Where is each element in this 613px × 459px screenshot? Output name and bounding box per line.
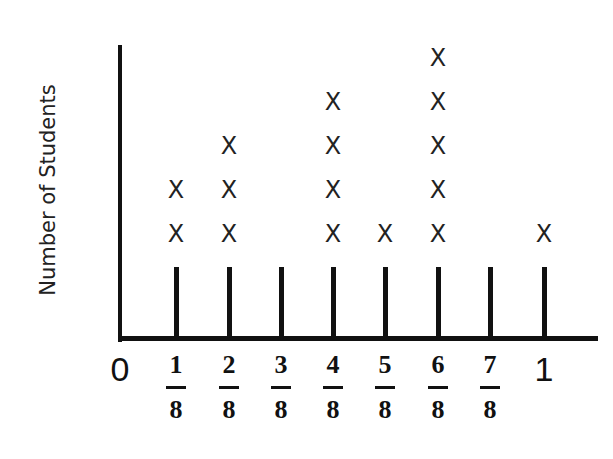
- x-axis-tick: [174, 267, 179, 338]
- x-tick-label-4-8: 48: [320, 352, 346, 423]
- x-tick-label-5-8: 58: [372, 352, 398, 423]
- y-axis-line: [118, 45, 122, 342]
- x-tick-label-6-8: 68: [425, 352, 451, 423]
- data-point-x-marker: X: [325, 178, 341, 202]
- data-point-x-marker: X: [536, 222, 552, 246]
- x-axis-line: [118, 336, 598, 341]
- x-tick-label-zero: 0: [111, 352, 130, 386]
- data-point-x-marker: X: [168, 222, 184, 246]
- x-axis-tick: [542, 267, 547, 338]
- x-tick-label-1-8: 18: [163, 352, 189, 423]
- x-axis-tick: [331, 267, 336, 338]
- data-point-x-marker: X: [168, 178, 184, 202]
- x-axis-tick: [279, 267, 284, 338]
- data-point-x-marker: X: [221, 222, 237, 246]
- x-axis-tick: [227, 267, 232, 338]
- data-point-x-marker: X: [430, 178, 446, 202]
- y-axis-label: Number of Students: [36, 84, 60, 296]
- data-point-x-marker: X: [430, 222, 446, 246]
- data-point-x-marker: X: [430, 134, 446, 158]
- data-point-x-marker: X: [221, 134, 237, 158]
- x-tick-label-7-8: 78: [477, 352, 503, 423]
- data-point-x-marker: X: [325, 222, 341, 246]
- x-tick-label-3-8: 38: [268, 352, 294, 423]
- data-point-x-marker: X: [221, 178, 237, 202]
- data-point-x-marker: X: [430, 46, 446, 70]
- x-axis-tick: [383, 267, 388, 338]
- x-tick-label-2-8: 28: [216, 352, 242, 423]
- x-axis-tick: [488, 267, 493, 338]
- data-point-x-marker: X: [325, 90, 341, 114]
- x-axis-tick: [436, 267, 441, 338]
- data-point-x-marker: X: [377, 222, 393, 246]
- x-tick-label-one: 1: [535, 352, 554, 386]
- data-point-x-marker: X: [325, 134, 341, 158]
- data-point-x-marker: X: [430, 90, 446, 114]
